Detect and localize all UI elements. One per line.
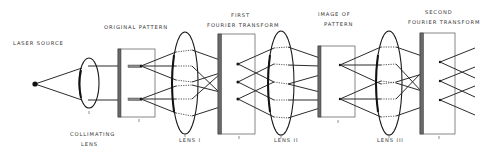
label-first-ft-1: FIRST bbox=[231, 12, 250, 18]
label-image-of-pattern-1: IMAGE OF bbox=[318, 11, 351, 17]
label-lens-1: LENS I bbox=[179, 137, 201, 143]
label-lens-3: LENS III bbox=[377, 137, 404, 143]
label-image-of-pattern-2: PATTERN bbox=[324, 21, 353, 27]
laser-source-icon bbox=[32, 81, 37, 86]
image-of-pattern-plate bbox=[318, 46, 355, 123]
label-original-pattern: ORIGINAL PATTERN bbox=[104, 24, 168, 30]
lens-1 bbox=[172, 32, 198, 137]
label-lens-2: LENS II bbox=[274, 137, 298, 143]
label-second-ft-1: SECOND bbox=[425, 9, 453, 15]
label-first-ft-2: FOURIER TRANSFORM bbox=[207, 22, 279, 28]
label-laser-source: LASER SOURCE bbox=[13, 40, 64, 46]
optical-diagram: LASER SOURCE ORIGINAL PATTERN COLLIMATIN… bbox=[0, 0, 490, 154]
label-collimating-lens-2: LENS bbox=[81, 141, 98, 147]
laser-beam bbox=[35, 66, 118, 100]
label-second-ft-2: FOURIER TRANSFORM bbox=[408, 19, 480, 25]
original-pattern-plate bbox=[118, 49, 155, 122]
first-fourier-transform-plate bbox=[218, 34, 255, 139]
label-collimating-lens-1: COLLIMATING bbox=[70, 131, 115, 137]
